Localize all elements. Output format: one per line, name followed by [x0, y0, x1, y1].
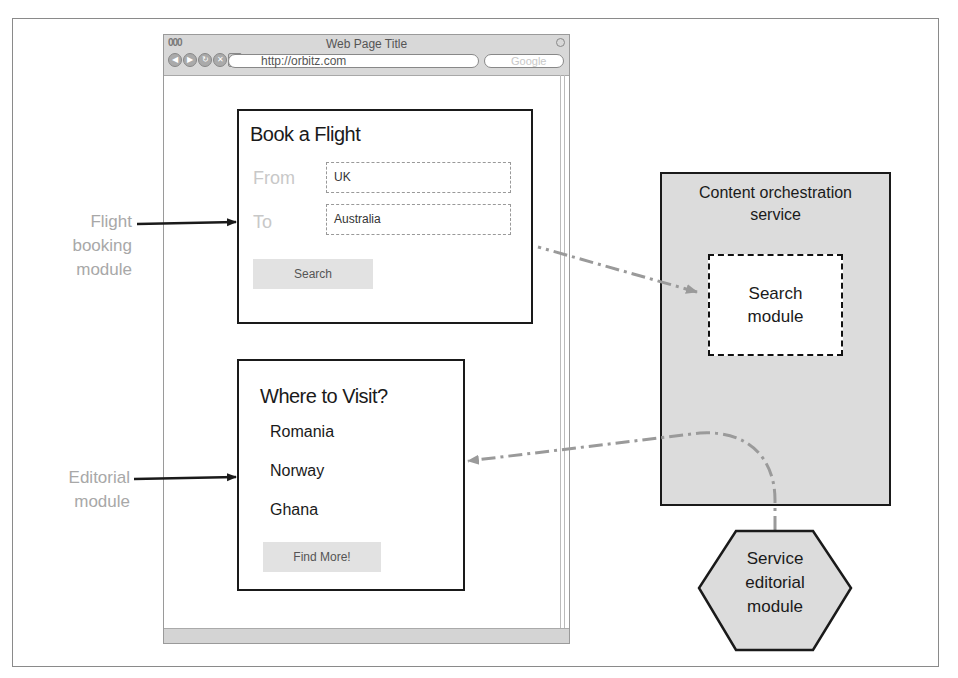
- window-zoom-icon[interactable]: [556, 38, 565, 47]
- vertical-scrollbar[interactable]: [560, 75, 565, 629]
- reload-icon[interactable]: ↻: [198, 53, 212, 67]
- service-title: Content orchestration service: [662, 182, 889, 226]
- editorial-module: Where to Visit? Romania Norway Ghana Fin…: [237, 359, 465, 591]
- annotation-line: module: [40, 258, 132, 282]
- window-title: Web Page Title: [164, 37, 569, 51]
- from-input[interactable]: UK: [326, 162, 511, 193]
- annotation-line: module: [40, 490, 130, 514]
- to-input[interactable]: Australia: [326, 204, 511, 235]
- find-more-button[interactable]: Find More!: [263, 542, 381, 572]
- browser-search-field[interactable]: Google: [484, 54, 564, 68]
- annotation-line: Flight: [40, 210, 132, 234]
- flight-booking-annotation: Flight booking module: [40, 210, 132, 282]
- search-module-service: Search module: [708, 254, 843, 356]
- hex-label-line: module: [700, 595, 850, 619]
- editorial-module-title: Where to Visit?: [260, 385, 388, 408]
- browser-titlebar: 000 Web Page Title ◀ ▶ ↻ ✕ + http://orbi…: [164, 35, 569, 76]
- flight-booking-module: Book a Flight From UK To Australia Searc…: [237, 109, 533, 324]
- hex-label-line: Service: [700, 547, 850, 571]
- search-button[interactable]: Search: [253, 259, 373, 289]
- search-module-line: Search: [748, 282, 804, 305]
- service-title-line: service: [662, 204, 889, 226]
- editorial-annotation: Editorial module: [40, 466, 130, 514]
- forward-icon[interactable]: ▶: [183, 53, 197, 67]
- back-icon[interactable]: ◀: [168, 53, 182, 67]
- to-label: To: [253, 212, 272, 233]
- place-item-romania[interactable]: Romania: [270, 423, 334, 441]
- service-editorial-module: Service editorial module: [700, 547, 850, 619]
- annotation-line: booking: [40, 234, 132, 258]
- annotation-line: Editorial: [40, 466, 130, 490]
- search-module-line: module: [748, 305, 804, 328]
- place-item-ghana[interactable]: Ghana: [270, 501, 318, 519]
- service-title-line: Content orchestration: [662, 182, 889, 204]
- flight-module-title: Book a Flight: [250, 123, 360, 146]
- hex-label-line: editorial: [700, 571, 850, 595]
- place-item-norway[interactable]: Norway: [270, 462, 324, 480]
- url-bar[interactable]: http://orbitz.com: [228, 54, 479, 68]
- status-bar: [164, 628, 569, 643]
- stop-icon[interactable]: ✕: [213, 53, 227, 67]
- from-label: From: [253, 168, 295, 189]
